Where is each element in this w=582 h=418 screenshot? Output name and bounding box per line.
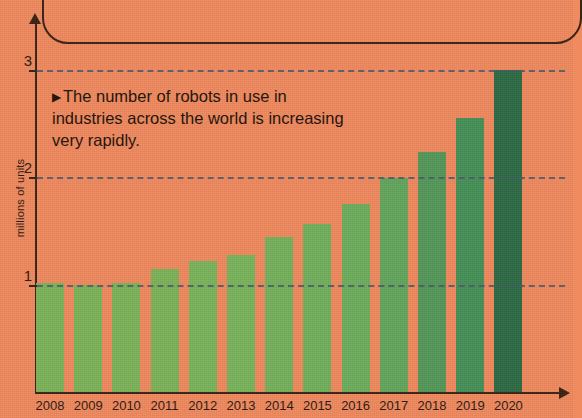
annotation-text: The number of robots in use in industrie… (52, 87, 344, 149)
annotation-callout: ▶The number of robots in use in industri… (52, 86, 352, 152)
bar-2014 (265, 237, 293, 392)
bar-2016 (342, 204, 370, 392)
bar-2009 (74, 285, 102, 393)
gridline-2 (37, 177, 565, 179)
bar-2008 (36, 283, 64, 392)
bar-2013 (227, 255, 255, 392)
y-tick-mark-3 (29, 70, 37, 72)
bar-2019 (456, 118, 484, 392)
y-tick-label-3: 3 (14, 52, 32, 69)
bar-2015 (303, 224, 331, 392)
y-tick-label-1: 1 (14, 267, 32, 284)
gridline-1 (37, 285, 565, 287)
y-tick-mark-1 (29, 285, 37, 287)
bar-2012 (189, 261, 217, 392)
triangle-bullet-icon: ▶ (52, 90, 61, 104)
bar-2010 (112, 283, 140, 392)
gridline-3 (37, 70, 565, 72)
bar-2018 (418, 152, 446, 392)
bar-2011 (151, 269, 179, 392)
bar-2020 (494, 70, 522, 393)
y-tick-label-2: 2 (14, 159, 32, 176)
y-tick-mark-2 (29, 177, 37, 179)
